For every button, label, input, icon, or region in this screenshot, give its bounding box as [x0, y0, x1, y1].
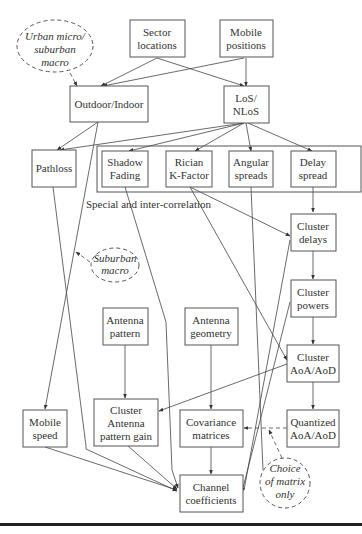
- channel-line2: coefficients: [185, 494, 236, 506]
- sector-line1: Sector: [143, 26, 171, 38]
- choice-line1: Choice: [269, 462, 300, 474]
- gain-line3: pattern gain: [100, 430, 153, 442]
- mobile-speed-line2: speed: [32, 429, 58, 441]
- mobile-speed-line1: Mobile: [29, 416, 61, 428]
- los-line2: NLoS: [233, 105, 259, 117]
- suburban-line2: macro: [101, 264, 129, 276]
- node-los-nlos: LoS/ NLoS: [224, 86, 269, 123]
- bottom-rule: [0, 523, 362, 526]
- antenna-geometry-line2: geometry: [190, 327, 232, 339]
- suburban-line1: Suburban: [94, 252, 137, 264]
- node-antenna-geometry: Antenna geometry: [185, 308, 238, 345]
- channel-model-diagram: Urban micro/ suburban macro Sector locat…: [0, 0, 362, 534]
- node-channel-coefficients: Channel coefficients: [180, 475, 243, 512]
- edge-cluster-delays-to-channel: [244, 240, 290, 490]
- edge-suburban-pointer: [76, 252, 90, 262]
- outdoor-indoor-label: Outdoor/Indoor: [74, 98, 143, 110]
- cluster-powers-line2: powers: [297, 299, 329, 311]
- edge-aoa-to-gain: [159, 364, 287, 411]
- node-sector-locations: Sector locations: [130, 20, 185, 57]
- edge-sector-to-los: [157, 58, 244, 86]
- channel-line1: Channel: [193, 481, 230, 493]
- node-choice-of-matrix: Choice of matrix only: [260, 458, 310, 508]
- gain-line2: Antenna: [107, 417, 144, 429]
- edge-gain-to-channel: [128, 446, 177, 489]
- angular-line2: spreads: [235, 169, 268, 181]
- node-quantized-aoa-aod: Quantized AoA/AoD: [287, 410, 339, 447]
- cluster-aoa-line2: AoA/AoD: [290, 364, 336, 376]
- node-antenna-pattern: Antenna pattern: [103, 308, 148, 345]
- edge-outdoor-to-pathloss: [57, 122, 98, 150]
- node-suburban-macro: Suburban macro: [91, 248, 139, 282]
- node-angular-spreads: Angular spreads: [229, 151, 273, 187]
- mobile-pos-line1: Mobile: [230, 26, 262, 38]
- cluster-powers-line1: Cluster: [297, 286, 329, 298]
- urban-micro-line2: suburban: [34, 43, 76, 55]
- choice-line2: of matrix: [265, 475, 305, 487]
- edge-rician-to-cluster-delays: [190, 187, 290, 236]
- shadow-line2: Fading: [110, 169, 141, 181]
- node-delay-spread: Delay spread: [291, 151, 336, 187]
- node-mobile-speed: Mobile speed: [23, 410, 67, 447]
- pathloss-label: Pathloss: [36, 162, 73, 174]
- gain-line1: Cluster: [110, 404, 142, 416]
- cluster-aoa-line1: Cluster: [297, 351, 329, 363]
- angular-line1: Angular: [233, 156, 269, 168]
- edge-choice-pointer: [269, 430, 282, 458]
- node-cluster-powers: Cluster powers: [291, 280, 336, 317]
- edges: [45, 58, 313, 492]
- node-pathloss: Pathloss: [32, 150, 76, 187]
- antenna-pattern-line1: Antenna: [106, 314, 143, 326]
- edge-sector-to-outdoor: [101, 58, 157, 86]
- node-covariance-matrices: Covariance matrices: [180, 410, 243, 447]
- node-rician-k-factor: Rician K-Factor: [166, 151, 212, 187]
- mobile-pos-line2: positions: [226, 39, 266, 51]
- edge-los-to-rician: [195, 123, 244, 151]
- node-urban-micro: Urban micro/ suburban macro: [17, 20, 93, 72]
- covariance-line1: Covariance: [186, 416, 236, 428]
- rician-line1: Rician: [175, 156, 204, 168]
- sector-line2: locations: [137, 39, 177, 51]
- edge-pathloss-to-channel: [53, 187, 86, 446]
- edge-pathloss-to-channel-b: [86, 446, 177, 491]
- urban-micro-line3: macro: [41, 56, 69, 68]
- edge-urban-to-outdoor: [70, 73, 77, 86]
- node-cluster-aoa-aod: Cluster AoA/AoD: [287, 345, 339, 382]
- edge-mobile-speed-to-channel: [45, 447, 177, 490]
- los-line1: LoS/: [235, 92, 257, 104]
- delay-line2: spread: [299, 169, 328, 181]
- antenna-geometry-line1: Antenna: [192, 314, 229, 326]
- antenna-pattern-line2: pattern: [110, 327, 141, 339]
- correlation-note: Special and inter-correlation: [86, 198, 212, 210]
- edge-los-to-angular: [246, 123, 251, 151]
- node-outdoor-indoor: Outdoor/Indoor: [70, 86, 148, 122]
- delay-line1: Delay: [300, 156, 327, 168]
- node-cluster-antenna-gain: Cluster Antenna pattern gain: [94, 399, 158, 446]
- covariance-line2: matrices: [192, 429, 229, 441]
- quantized-line2: AoA/AoD: [290, 429, 336, 441]
- choice-line3: only: [276, 488, 295, 500]
- node-mobile-positions: Mobile positions: [220, 20, 273, 57]
- edge-los-to-delay: [248, 123, 312, 151]
- cluster-delays-line2: delays: [299, 233, 327, 245]
- shadow-line1: Shadow: [107, 156, 143, 168]
- urban-micro-line1: Urban micro/: [25, 30, 86, 42]
- edge-mobile-pos-to-outdoor: [103, 58, 244, 86]
- node-shadow-fading: Shadow Fading: [102, 151, 148, 187]
- node-cluster-delays: Cluster delays: [291, 214, 336, 251]
- cluster-delays-line1: Cluster: [297, 220, 329, 232]
- edge-angular-to-cluster-aoa: [251, 187, 263, 470]
- quantized-line1: Quantized: [290, 416, 336, 428]
- rician-line2: K-Factor: [169, 169, 209, 181]
